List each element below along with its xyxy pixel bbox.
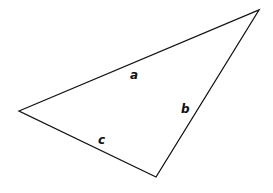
side-label-c: c [98,134,105,146]
side-label-b: b [181,103,190,115]
triangle-shape [0,0,273,193]
side-label-a: a [130,69,138,81]
triangle-diagram: a b c [0,0,273,193]
